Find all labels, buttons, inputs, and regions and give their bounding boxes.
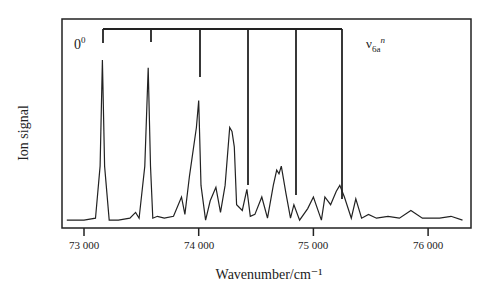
progression-bracket [103,29,342,199]
x-tick-label: 73 000 [54,239,114,251]
origin-base: 0 [74,37,81,52]
progression-label: ν6an [366,35,385,54]
spectrum-trace [67,60,463,220]
x-axis-ticks [84,228,428,236]
y-axis-label: Ion signal [16,93,32,173]
prog-sup: n [380,35,385,45]
x-tick-label: 74 000 [169,239,229,251]
origin-band-label: 00 [74,35,86,53]
x-tick-label: 75 000 [283,239,343,251]
origin-sup: 0 [81,35,86,45]
prog-sub: 6a [372,44,381,54]
plot-frame [62,19,471,228]
x-axis-label: Wavenumber/cm⁻¹ [0,266,488,283]
x-tick-label: 76 000 [398,239,458,251]
